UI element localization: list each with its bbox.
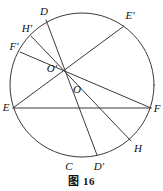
vertex-label-F-prime: F' (9, 41, 18, 52)
vertex-label-F: F (154, 103, 161, 114)
figure-strokes (10, 13, 154, 157)
vertex-label-D-prime: D' (94, 161, 104, 172)
vertex-label-E: E (3, 102, 10, 113)
circumscribed-circle (10, 13, 154, 157)
figure-caption: 图 16 (0, 172, 163, 188)
vertex-label-O-prime: O' (47, 63, 57, 74)
chord-F-F-prime (20, 52, 151, 108)
vertex-label-D: D (40, 6, 48, 17)
vertex-label-H-prime: H' (22, 23, 32, 34)
vertex-label-E-prime: E' (125, 10, 134, 21)
chord-E-E-prime (13, 26, 124, 108)
chord-D-D-prime (46, 20, 97, 155)
vertex-label-O: O (73, 84, 81, 95)
vertex-label-H: H (134, 143, 142, 154)
geometry-figure: D E' H' F' E F H C D' O' O 图 16 (0, 0, 163, 191)
vertex-label-C: C (65, 161, 72, 172)
